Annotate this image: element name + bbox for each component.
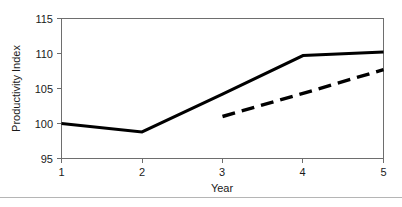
x-tick-label-2: 2 (139, 166, 145, 178)
x-tick-label-1: 1 (58, 166, 64, 178)
chart-canvas: 115 110 105 100 95 1 2 3 4 5 Productivit… (0, 0, 402, 207)
x-axis-tick-labels: 1 2 3 4 5 (58, 166, 386, 178)
y-axis-title: Productivity Index (10, 45, 22, 132)
y-tick-label-110: 110 (35, 48, 53, 60)
x-tick-label-3: 3 (219, 166, 225, 178)
x-axis-title: Year (211, 182, 234, 194)
y-tick-label-100: 100 (35, 118, 53, 130)
axis-spines (62, 19, 384, 159)
series-line-dashed (223, 70, 384, 117)
productivity-index-chart: 115 110 105 100 95 1 2 3 4 5 Productivit… (0, 0, 402, 207)
y-axis-tick-labels: 115 110 105 100 95 (35, 13, 53, 165)
y-tick-label-105: 105 (35, 83, 53, 95)
series-line-solid (62, 52, 384, 132)
x-axis-ticks (62, 159, 384, 164)
y-tick-label-95: 95 (41, 153, 53, 165)
y-axis-ticks (57, 19, 62, 159)
y-tick-label-115: 115 (35, 13, 53, 25)
x-tick-label-4: 4 (299, 166, 305, 178)
footer-divider (0, 197, 402, 198)
x-tick-label-5: 5 (380, 166, 386, 178)
